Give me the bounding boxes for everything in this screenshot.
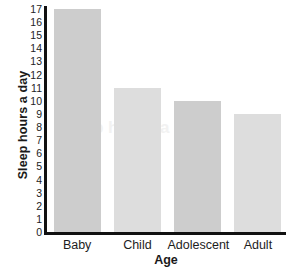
y-tick-11: 11 [31, 83, 42, 93]
bar-chart: Sleep hours a day Sleep hours a day 0123… [0, 0, 290, 270]
y-tick-9: 9 [36, 109, 42, 119]
y-tick-13: 13 [30, 56, 42, 66]
y-axis-tick-labels: 01234567891011121314151617 [20, 0, 42, 270]
y-tick-15: 15 [30, 30, 42, 40]
y-tick-10: 10 [30, 96, 42, 106]
bar-baby [54, 9, 101, 232]
y-tick-7: 7 [36, 135, 42, 145]
y-tick-1: 1 [36, 214, 42, 224]
x-tick-baby: Baby [47, 238, 107, 253]
x-tick-adult: Adult [228, 238, 288, 253]
x-axis-tick-labels: BabyChildAdolescentAdult [44, 238, 288, 254]
bar-series [47, 0, 288, 232]
x-axis-title: Age [44, 253, 288, 267]
y-tick-5: 5 [36, 161, 42, 171]
x-axis-line [44, 232, 286, 235]
y-tick-4: 4 [36, 175, 42, 185]
x-tick-child: Child [107, 238, 167, 253]
y-tick-12: 12 [30, 70, 42, 80]
y-tick-0: 0 [36, 227, 42, 237]
y-tick-16: 16 [30, 17, 42, 27]
y-tick-6: 6 [36, 148, 42, 158]
y-tick-14: 14 [30, 43, 42, 53]
y-tick-2: 2 [36, 201, 42, 211]
y-tick-3: 3 [36, 188, 42, 198]
bar-adolescent [174, 101, 221, 232]
x-tick-adolescent: Adolescent [168, 238, 228, 253]
bar-adult [234, 114, 281, 232]
bar-child [114, 88, 161, 232]
y-tick-17: 17 [30, 4, 42, 14]
y-tick-8: 8 [36, 122, 42, 132]
